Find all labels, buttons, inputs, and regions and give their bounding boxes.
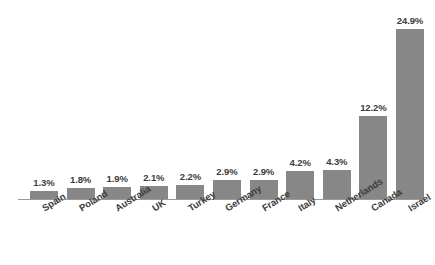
- bar-value-label: 2.2%: [180, 171, 201, 182]
- bar-value-label: 4.2%: [290, 157, 311, 168]
- bar-group[interactable]: 2.1%: [140, 1, 168, 200]
- bar-value-label: 2.9%: [253, 166, 274, 177]
- bar[interactable]: [396, 29, 424, 200]
- bar-group[interactable]: 4.2%: [286, 1, 314, 200]
- bar-group[interactable]: 2.2%: [176, 1, 204, 200]
- bar-value-label: 1.9%: [107, 173, 128, 184]
- bar-value-label: 12.2%: [360, 102, 386, 113]
- bar-group[interactable]: 24.9%: [396, 1, 424, 200]
- bar-group[interactable]: 1.3%: [30, 1, 58, 200]
- bar-chart: 1.3%1.8%1.9%2.1%2.2%2.9%2.9%4.2%4.3%12.2…: [0, 0, 435, 265]
- bar-group[interactable]: 12.2%: [359, 1, 387, 200]
- bar-value-label: 1.3%: [33, 177, 54, 188]
- bar-group[interactable]: 2.9%: [250, 1, 278, 200]
- bar-group[interactable]: 1.9%: [103, 1, 131, 200]
- plot-area: 1.3%1.8%1.9%2.1%2.2%2.9%2.9%4.2%4.3%12.2…: [0, 0, 435, 200]
- bar-value-label: 2.9%: [216, 166, 237, 177]
- bar-value-label: 24.9%: [397, 15, 423, 26]
- bar-group[interactable]: 4.3%: [323, 1, 351, 200]
- x-tick-label-uk: UK: [150, 197, 167, 213]
- bar-value-label: 1.8%: [70, 174, 91, 185]
- x-axis-tick-labels: SpainPolandAustraliaUKTurkeyGermanyFranc…: [0, 200, 435, 265]
- bar-group[interactable]: 2.9%: [213, 1, 241, 200]
- bar-group[interactable]: 1.8%: [67, 1, 95, 200]
- bar-value-label: 4.3%: [326, 156, 347, 167]
- bar-value-label: 2.1%: [143, 172, 164, 183]
